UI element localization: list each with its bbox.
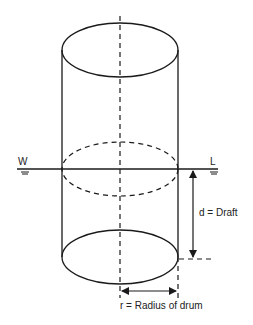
water-symbol-right-icon xyxy=(210,172,218,174)
label-radius: r = Radius of drum xyxy=(120,300,203,311)
label-w: W xyxy=(18,156,28,167)
drum-diagram: W L d = Draft r = Radius of drum xyxy=(0,0,253,325)
water-symbol-left-icon xyxy=(21,172,29,174)
drum-bottom-ellipse xyxy=(62,230,178,284)
label-l: L xyxy=(210,156,216,167)
drum-top-ellipse xyxy=(62,23,178,77)
label-draft: d = Draft xyxy=(199,207,238,218)
